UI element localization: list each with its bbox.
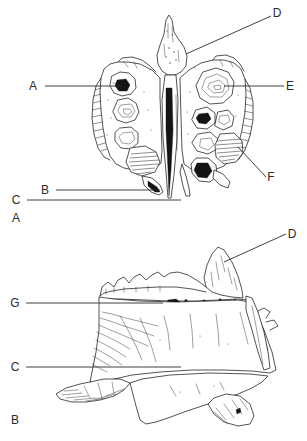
label-a-a: A [29, 79, 37, 93]
label-b-d: D [288, 227, 297, 241]
left-ethmoid-labyrinth [92, 57, 163, 195]
superior-margin-drawing [100, 272, 206, 296]
lower-right-process [208, 394, 254, 426]
lower-left-process [56, 379, 130, 402]
leader-line-a-f [238, 147, 266, 177]
leader-line-a-d [186, 16, 271, 54]
perpendicular-plate-drawing [157, 15, 187, 75]
panel-b-illustration [56, 247, 278, 426]
anatomical-figure: A D E F B C A D G C B [0, 0, 307, 441]
label-a-e: E [286, 79, 294, 93]
label-b-c: C [11, 360, 20, 374]
crest-drawing [204, 247, 243, 298]
label-a-b: B [41, 183, 49, 197]
label-a-d: D [273, 6, 282, 20]
label-a-c: C [12, 193, 21, 207]
vomer-drawing [162, 75, 178, 198]
leader-line-b-d [224, 234, 286, 262]
panel-label-a: A [12, 211, 20, 225]
right-ethmoid-labyrinth [180, 55, 253, 196]
panel-a-illustration [92, 15, 253, 198]
label-b-g: G [10, 296, 19, 310]
panel-label-b: B [11, 413, 19, 427]
figure-canvas: A D E F B C A D G C B [0, 0, 307, 441]
label-a-f: F [267, 170, 274, 184]
